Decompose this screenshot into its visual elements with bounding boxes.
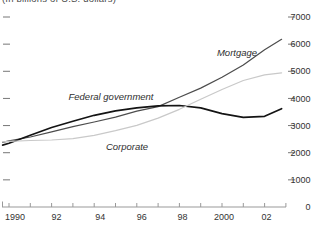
series-label-mortgage: Mortgage [217, 47, 257, 58]
y-tick-label: 3000 [290, 121, 310, 131]
y-tick-label: 7000 [290, 12, 310, 22]
x-tick-label: 1990 [5, 212, 25, 222]
x-tick-label: 94 [95, 212, 105, 222]
line-chart-canvas: 1990929496982000020100020003000400050006… [0, 0, 311, 232]
debt-outstanding-chart: (In billions of U.S. dollars) 1990929496… [0, 0, 311, 232]
y-tick-label: 5000 [290, 66, 310, 76]
series-label-federal-government: Federal government [68, 91, 153, 102]
x-tick-label: 96 [137, 212, 147, 222]
series-label-corporate: Corporate [106, 141, 148, 152]
y-tick-label: 2000 [290, 148, 310, 158]
y-tick-label: 4000 [290, 94, 310, 104]
y-tick-label: 1000 [290, 175, 310, 185]
x-tick-label: 92 [52, 212, 62, 222]
x-tick-label: 2000 [214, 212, 234, 222]
x-tick-label: 98 [177, 212, 187, 222]
y-tick-label: 6000 [290, 39, 310, 49]
x-tick-label: 02 [262, 212, 272, 222]
series-line-federal-government [3, 106, 282, 146]
y-tick-label: 0 [305, 202, 310, 212]
